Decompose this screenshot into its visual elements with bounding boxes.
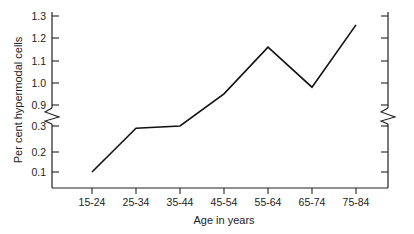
axis-break-left-icon: [45, 108, 59, 124]
x-tick-label-25-34: 25-34: [123, 196, 150, 208]
line-chart-canvas: 0.1 0.2 0.3 0.9 1.0 1.1 1.2 1.3 15-24 25…: [0, 0, 414, 234]
y-axis-title: Per cent hypermodal cells: [12, 36, 24, 163]
x-tick-label-15-24: 15-24: [79, 196, 106, 208]
y-tick-label-0.9: 0.9: [31, 99, 46, 111]
x-tick-label-55-64: 55-64: [255, 196, 282, 208]
y-tick-marks-left: [52, 16, 59, 172]
y-tick-label-0.3: 0.3: [31, 120, 46, 132]
y-tick-label-0.2: 0.2: [31, 146, 46, 158]
x-axis-title: Age in years: [193, 214, 255, 226]
data-line-hypermodal-cells: [92, 25, 356, 172]
y-tick-label-0.1: 0.1: [31, 166, 46, 178]
x-tick-label-45-54: 45-54: [211, 196, 238, 208]
x-tick-labels: 15-24 25-34 35-44 45-54 55-64 65-74 75-8…: [79, 196, 370, 208]
y-tick-label-1.3: 1.3: [31, 10, 46, 22]
y-tick-marks-right: [381, 16, 388, 172]
x-tick-label-65-74: 65-74: [299, 196, 326, 208]
axis-break-right-icon: [381, 108, 395, 124]
y-tick-label-1.1: 1.1: [31, 55, 46, 67]
x-tick-label-35-44: 35-44: [167, 196, 194, 208]
y-tick-label-1.0: 1.0: [31, 77, 46, 89]
y-tick-label-1.2: 1.2: [31, 32, 46, 44]
y-axis-break-group: [45, 108, 395, 124]
x-tick-label-75-84: 75-84: [343, 196, 370, 208]
chart-figure: 0.1 0.2 0.3 0.9 1.0 1.1 1.2 1.3 15-24 25…: [0, 0, 414, 234]
data-series-group: [92, 25, 356, 172]
x-tick-marks: [92, 188, 356, 194]
y-tick-labels: 0.1 0.2 0.3 0.9 1.0 1.1 1.2 1.3: [31, 10, 46, 178]
